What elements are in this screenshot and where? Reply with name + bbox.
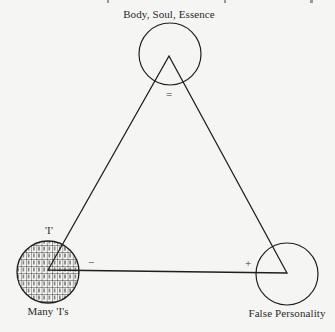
top-vertex-label: Body, Soul, Essence <box>123 8 215 20</box>
body-soul-essence-circle <box>139 23 201 85</box>
false-personality-circle <box>256 243 318 305</box>
equals-sign: = <box>166 88 172 100</box>
false-personality-label: False Personality <box>248 307 325 319</box>
single-i-label: 'I' <box>45 224 53 236</box>
cropped-top-text-fragments <box>107 0 313 3</box>
many-i-circle <box>17 241 79 303</box>
many-i-label: Many 'I's <box>27 305 68 317</box>
minus-sign: − <box>88 256 94 268</box>
triangle-diagram <box>0 0 335 332</box>
plus-sign: + <box>245 257 251 269</box>
